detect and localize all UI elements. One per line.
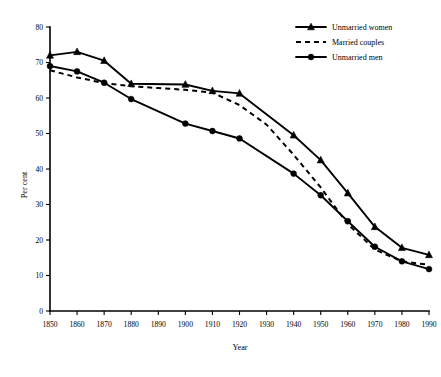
- legend-marker-circle: [308, 54, 314, 60]
- data-point-marker: [372, 244, 378, 250]
- data-point-marker: [426, 266, 432, 272]
- x-axis-label: Year: [232, 343, 247, 352]
- x-tick-label: 1890: [151, 320, 166, 329]
- data-point-marker: [47, 63, 53, 69]
- data-point-marker: [182, 121, 188, 127]
- x-tick-label: 1990: [421, 320, 436, 329]
- line-chart: 01020304050607080 1850186018701880189019…: [0, 0, 441, 377]
- y-axis-label: Per cent: [20, 171, 29, 198]
- data-point-marker: [345, 218, 351, 224]
- legend-label: Unmarried women: [332, 23, 392, 32]
- y-tick-label: 60: [35, 94, 43, 103]
- y-axis-ticklabels: 01020304050607080: [35, 23, 43, 316]
- x-tick-label: 1980: [394, 320, 409, 329]
- data-point-marker: [399, 258, 405, 264]
- x-tick-label: 1860: [69, 320, 84, 329]
- legend-label: Unmarried men: [332, 53, 382, 62]
- x-tick-label: 1910: [205, 320, 220, 329]
- y-tick-label: 10: [35, 271, 43, 280]
- y-tick-label: 50: [35, 129, 43, 138]
- x-axis-ticklabels: 1850186018701880189019001910192019301940…: [42, 320, 436, 329]
- data-point-marker: [318, 192, 324, 198]
- x-tick-label: 1970: [367, 320, 382, 329]
- x-tick-label: 1880: [124, 320, 139, 329]
- y-tick-label: 70: [35, 58, 43, 67]
- x-tick-label: 1850: [42, 320, 57, 329]
- y-tick-label: 30: [35, 200, 43, 209]
- data-point-marker: [101, 80, 107, 86]
- x-tick-label: 1930: [259, 320, 274, 329]
- x-tick-label: 1920: [232, 320, 247, 329]
- data-point-marker: [237, 136, 243, 142]
- y-tick-label: 0: [39, 307, 43, 316]
- y-tick-label: 20: [35, 236, 43, 245]
- data-point-marker: [210, 128, 216, 134]
- y-tick-label: 40: [35, 165, 43, 174]
- y-tick-label: 80: [35, 23, 43, 32]
- x-tick-label: 1950: [313, 320, 328, 329]
- x-tick-label: 1940: [286, 320, 301, 329]
- legend-label: Married couples: [332, 38, 384, 47]
- x-tick-label: 1870: [97, 320, 112, 329]
- x-tick-label: 1900: [178, 320, 193, 329]
- chart-figure: 01020304050607080 1850186018701880189019…: [0, 0, 441, 377]
- data-point-marker: [74, 68, 80, 74]
- data-point-marker: [291, 171, 297, 177]
- data-point-marker: [128, 96, 134, 102]
- x-tick-label: 1960: [340, 320, 355, 329]
